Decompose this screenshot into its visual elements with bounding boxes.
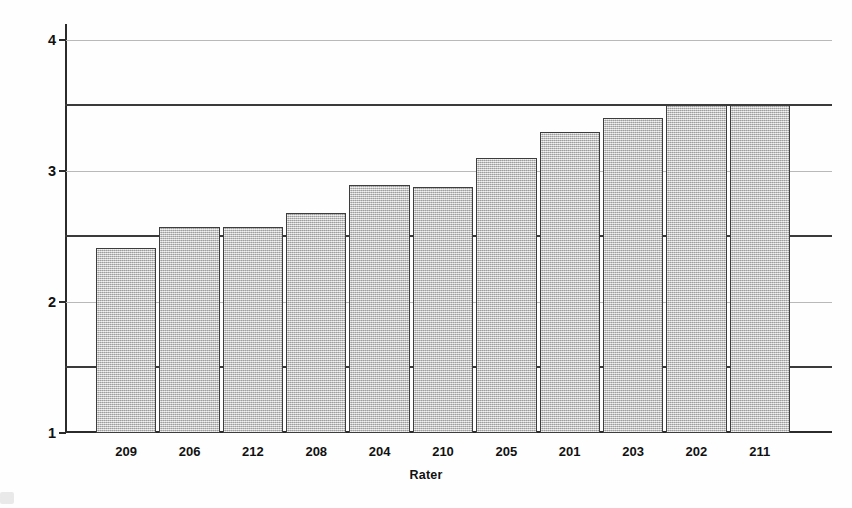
x-tick-label-210: 210 [432,444,454,459]
y-tick-label: 1 [48,426,56,441]
bar-202[interactable] [666,105,726,433]
x-axis-title: Rater [0,468,852,482]
bar-chart: Mean score (1-6) 1234 209206212208204210… [0,0,852,508]
x-tick-label-212: 212 [242,444,264,459]
y-tick-label: 2 [48,295,56,310]
x-tick-label-203: 203 [622,444,644,459]
bar-210[interactable] [413,187,473,433]
x-tick-label-201: 201 [559,444,581,459]
bar-205[interactable] [476,158,536,433]
plot-area: 1234 [65,24,832,433]
bar-201[interactable] [540,132,600,434]
x-tick-label-204: 204 [369,444,391,459]
scan-artifact [0,492,14,504]
x-tick-label-206: 206 [179,444,201,459]
x-tick-label-211: 211 [749,444,770,459]
y-tick-label: 4 [48,32,56,47]
y-tick-label: 3 [48,164,56,179]
bar-206[interactable] [159,227,219,433]
x-tick-label-202: 202 [686,444,708,459]
bar-208[interactable] [286,213,346,433]
bar-211[interactable] [730,105,790,433]
bar-204[interactable] [349,185,409,433]
x-tick-label-205: 205 [496,444,518,459]
bar-212[interactable] [223,227,283,433]
x-tick-label-209: 209 [115,444,137,459]
bar-209[interactable] [96,248,156,433]
bar-203[interactable] [603,118,663,433]
x-tick-label-208: 208 [305,444,327,459]
bars-group [65,24,832,433]
